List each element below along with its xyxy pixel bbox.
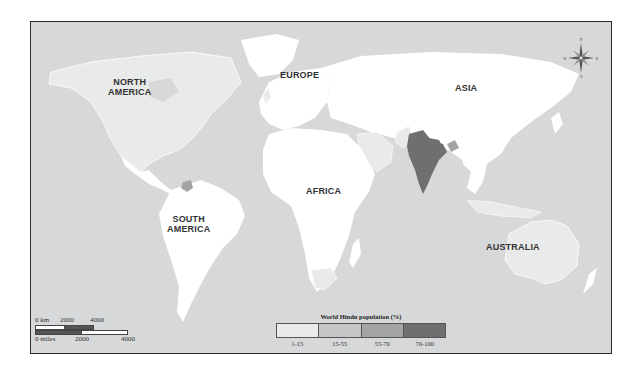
new-zealand [583, 268, 597, 294]
legend-swatch-1-15 [277, 324, 319, 337]
legend-swatch-15-55 [319, 324, 361, 337]
north-america [49, 52, 241, 172]
scale-km-tick: 4000 [90, 316, 104, 324]
label-australia: AUSTRALIA [486, 242, 540, 252]
compass-e: E [596, 56, 599, 61]
madagascar [349, 238, 361, 268]
indonesia [467, 200, 541, 218]
legend-label: 1-15 [276, 340, 319, 347]
label-line: SOUTH [167, 214, 210, 224]
scale-miles-tick: 4000 [121, 335, 135, 343]
scale-km-tick: 2000 [60, 316, 74, 324]
map-frame: NORTH AMERICA EUROPE ASIA AFRICA SOUTH A… [30, 21, 612, 354]
legend-swatch-70-100 [404, 324, 445, 337]
label-africa: AFRICA [306, 186, 341, 196]
label-asia: ASIA [455, 83, 477, 93]
label-north-america: NORTH AMERICA [108, 77, 151, 97]
legend-label: 70-100 [404, 340, 447, 347]
label-south-america: SOUTH AMERICA [167, 214, 210, 234]
scale-miles-labels: 0 miles 2000 4000 [35, 335, 155, 344]
compass-s: S [580, 74, 582, 79]
legend-label: 55-70 [361, 340, 404, 347]
legend-title: World Hindu population (%) [276, 313, 446, 320]
south-africa [311, 268, 337, 290]
compass-rose-icon: N S W E [563, 36, 599, 80]
label-line: AMERICA [108, 87, 151, 97]
south-america [159, 180, 245, 322]
legend-swatches [276, 323, 446, 338]
scale-km-labels: 0 km 2000 4000 [35, 316, 155, 325]
scale-bar: 0 km 2000 4000 0 miles 2000 4000 [35, 316, 155, 344]
compass-w: W [563, 56, 567, 61]
scale-miles-tick: 2000 [75, 335, 89, 343]
legend: World Hindu population (%) 1-15 15-55 55… [276, 313, 446, 347]
compass-n: N [580, 37, 583, 42]
africa [263, 128, 375, 292]
label-line: NORTH [108, 77, 151, 87]
label-line: AMERICA [167, 224, 210, 234]
label-europe: EUROPE [280, 70, 319, 80]
legend-swatch-55-70 [362, 324, 404, 337]
legend-label: 15-55 [319, 340, 362, 347]
australia [505, 220, 579, 284]
scale-km-unit: 0 km [35, 316, 49, 324]
japan [551, 112, 563, 134]
scale-miles-unit: 0 miles [35, 335, 55, 343]
legend-labels: 1-15 15-55 55-70 70-100 [276, 340, 446, 347]
